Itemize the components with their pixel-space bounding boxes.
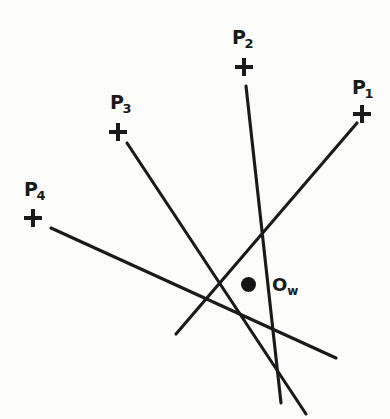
plus-icon-p1 bbox=[353, 105, 371, 123]
plus-icon-p3 bbox=[109, 123, 127, 141]
plus-icon-p4 bbox=[24, 209, 42, 227]
origin-dot bbox=[241, 277, 256, 292]
point-label-p1-subscript: 1 bbox=[364, 86, 373, 101]
origin-label-ow: Ow bbox=[272, 276, 298, 297]
figure-line-layer bbox=[0, 0, 390, 419]
point-label-p2: P2 bbox=[232, 28, 253, 50]
plus-icon-p2 bbox=[235, 58, 253, 76]
origin-label-subscript: w bbox=[287, 284, 298, 298]
diagram-canvas: P1 P2 P3 P4 Ow bbox=[0, 0, 390, 419]
point-label-p3: P3 bbox=[110, 93, 131, 115]
point-label-p2-subscript: 2 bbox=[244, 36, 253, 51]
point-label-p3-subscript: 3 bbox=[122, 101, 131, 116]
point-label-p4: P4 bbox=[24, 180, 45, 202]
point-label-p1: P1 bbox=[352, 78, 373, 100]
line-group bbox=[51, 86, 357, 414]
point-label-p4-subscript: 4 bbox=[36, 188, 45, 203]
line-from-p1 bbox=[176, 123, 357, 334]
origin-label-base: O bbox=[272, 274, 287, 295]
